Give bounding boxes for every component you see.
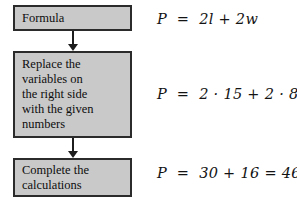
equation-result: P = 30 + 16 = 46: [157, 165, 297, 181]
arrow-head: [68, 44, 78, 51]
arrow-shaft: [72, 138, 74, 152]
flow-step-complete-label: Complete the calculations: [22, 163, 89, 193]
arrow-down-icon: [66, 31, 80, 51]
arrow-head: [68, 151, 78, 158]
flowchart-figure: Formula Replace the variables on the rig…: [0, 0, 297, 205]
flow-step-replace-box: Replace the variables on the right side …: [13, 51, 132, 138]
flow-step-replace-label: Replace the variables on the right side …: [22, 57, 94, 131]
arrow-down-icon: [66, 138, 80, 158]
equation-formula: P = 2l + 2w: [157, 11, 258, 27]
flow-step-formula-box: Formula: [13, 5, 132, 31]
flow-step-formula-label: Formula: [22, 11, 64, 26]
arrow-shaft: [72, 31, 74, 45]
flow-step-complete-box: Complete the calculations: [13, 158, 132, 197]
equation-substituted: P = 2 · 15 + 2 · 8: [157, 86, 297, 102]
